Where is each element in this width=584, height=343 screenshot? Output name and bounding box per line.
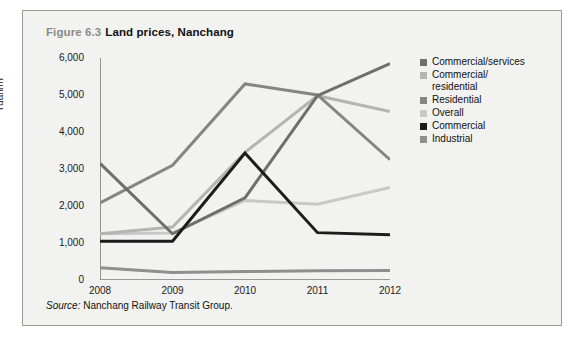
- legend-swatch-icon: [420, 97, 427, 104]
- x-tick-label: 2010: [234, 285, 256, 296]
- source-word: Source:: [46, 300, 80, 311]
- plot-area: [100, 58, 390, 280]
- legend-item[interactable]: Residential: [420, 94, 570, 106]
- figure-name: Land prices, Nanchang: [105, 26, 234, 38]
- y-tick-label: 3,000: [59, 163, 84, 174]
- legend-label: Commercial/services: [432, 56, 525, 68]
- figure-title: Figure 6.3Land prices, Nanchang: [46, 26, 234, 38]
- x-axis-tick-labels: 20082009201020112012: [100, 285, 390, 301]
- series-line: [100, 268, 390, 273]
- legend-swatch-icon: [420, 136, 427, 143]
- chart-axes: [100, 58, 390, 280]
- legend-item[interactable]: Commercial/services: [420, 56, 570, 68]
- chart-series: [100, 64, 390, 273]
- y-axis-tick-labels: 01,0002,0003,0004,0005,0006,000: [48, 58, 94, 280]
- y-axis-title-text: Yuan/m2: [0, 74, 5, 112]
- series-line: [100, 188, 390, 234]
- series-line: [100, 64, 390, 234]
- legend-swatch-icon: [420, 59, 427, 66]
- legend-swatch-icon: [420, 110, 427, 117]
- legend-swatch-icon: [420, 123, 427, 130]
- y-tick-label: 2,000: [59, 200, 84, 211]
- legend-item[interactable]: Overall: [420, 107, 570, 119]
- y-axis-title: Yuan/m2: [0, 74, 5, 112]
- y-tick-label: 0: [78, 274, 84, 285]
- source-note: Source: Nanchang Railway Transit Group.: [46, 300, 233, 311]
- x-tick-label: 2011: [307, 285, 329, 296]
- legend-label: Overall: [432, 107, 464, 119]
- chart-legend: Commercial/servicesCommercial/ residenti…: [420, 56, 570, 146]
- x-tick-label: 2009: [161, 285, 183, 296]
- x-tick-label: 2008: [89, 285, 111, 296]
- line-chart: [100, 58, 390, 280]
- legend-label: Residential: [432, 94, 481, 106]
- legend-item[interactable]: Commercial/ residential: [420, 69, 570, 93]
- legend-swatch-icon: [420, 72, 427, 79]
- y-tick-label: 5,000: [59, 89, 84, 100]
- legend-item[interactable]: Industrial: [420, 133, 570, 145]
- series-line: [100, 96, 390, 234]
- y-tick-label: 6,000: [59, 52, 84, 63]
- legend-item[interactable]: Commercial: [420, 120, 570, 132]
- legend-label: Industrial: [432, 133, 473, 145]
- legend-label: Commercial/ residential: [432, 69, 488, 93]
- x-tick-label: 2012: [379, 285, 401, 296]
- source-text: Nanchang Railway Transit Group.: [83, 300, 233, 311]
- y-tick-label: 4,000: [59, 126, 84, 137]
- legend-label: Commercial: [432, 120, 485, 132]
- figure-page: Figure 6.3Land prices, Nanchang Yuan/m2 …: [0, 0, 584, 343]
- figure-number: Figure 6.3: [46, 26, 101, 38]
- y-tick-label: 1,000: [59, 237, 84, 248]
